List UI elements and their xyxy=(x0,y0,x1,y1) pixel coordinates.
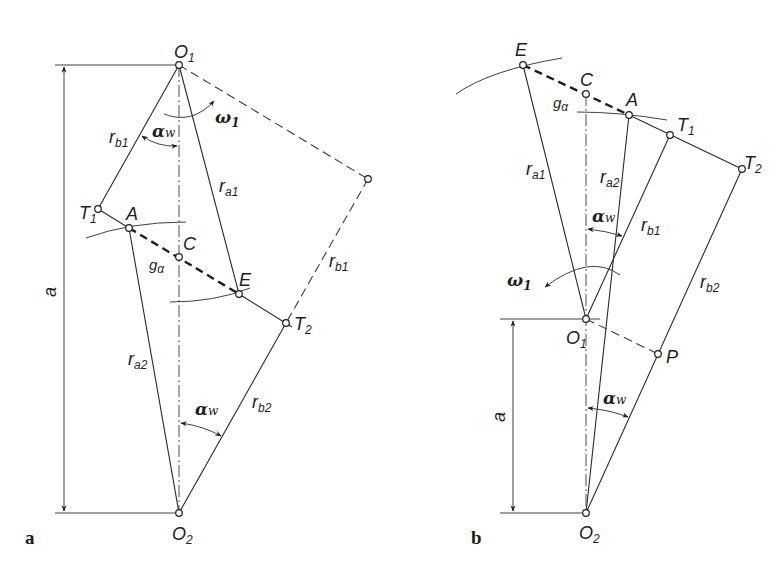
label-rb1: rb1 xyxy=(109,127,128,150)
label-o1-b: O1 xyxy=(566,328,587,351)
label-p-b: P xyxy=(666,347,678,367)
construction-line-o1 xyxy=(179,65,368,179)
panel-a: a O1 O2 T1 xyxy=(25,42,371,548)
point-o2 xyxy=(176,510,183,517)
label-e: E xyxy=(239,270,252,290)
point-t1-b xyxy=(667,132,674,139)
point-a xyxy=(126,225,133,232)
dimension-label: a xyxy=(40,287,60,297)
point-e-b xyxy=(520,62,527,69)
gear-mesh-diagram: a O1 O2 T1 xyxy=(0,0,784,573)
angle-arc-alpha-w-bottom xyxy=(181,423,221,436)
panel-b: a E C A T1 T2 xyxy=(456,40,762,548)
label-omega1-b: ω1 xyxy=(507,270,532,293)
label-o2: O2 xyxy=(172,524,193,547)
tip-circle-arc-2 xyxy=(86,222,186,238)
construction-line-rb1 xyxy=(286,179,368,323)
label-t2-b: T2 xyxy=(744,153,762,176)
label-rb2-b: rb2 xyxy=(700,272,720,295)
label-rb2: rb2 xyxy=(252,392,272,415)
point-o1 xyxy=(176,62,183,69)
label-alpha-w-top-b: αw xyxy=(592,206,616,226)
label-omega1: ω1 xyxy=(215,107,240,130)
point-c xyxy=(176,254,183,261)
panel-label-a: a xyxy=(25,527,35,548)
tip-radius-2-b xyxy=(586,115,629,513)
label-o1: O1 xyxy=(174,42,195,65)
label-alpha-w-bottom-b: αw xyxy=(603,388,627,408)
label-rb1-dashed: rb1 xyxy=(329,251,348,274)
label-g-alpha: gα xyxy=(149,256,165,276)
dimension-label-b: a xyxy=(489,412,509,422)
label-a: A xyxy=(125,204,138,224)
point-e xyxy=(236,291,243,298)
point-p-b xyxy=(655,351,662,358)
label-alpha-w-top: αw xyxy=(152,121,176,141)
tip-radius-1 xyxy=(179,65,239,294)
label-t1-b: T1 xyxy=(677,115,695,138)
angle-arc-alpha-w-bottom-b xyxy=(588,408,628,417)
label-c-b: C xyxy=(580,70,594,90)
tip-circle-arc-2-b xyxy=(577,112,667,120)
label-c: C xyxy=(183,234,197,254)
path-of-contact-b xyxy=(523,65,629,115)
point-perpendicular-foot xyxy=(365,176,372,183)
label-t2: T2 xyxy=(294,314,312,337)
label-a-b: A xyxy=(625,90,638,110)
label-g-alpha-b: gα xyxy=(553,94,569,114)
construction-line-o1-p xyxy=(586,319,658,354)
label-o2-b: O2 xyxy=(579,523,600,546)
label-t1: T1 xyxy=(79,203,97,226)
panel-label-b: b xyxy=(471,527,482,548)
label-ra1-b: ra1 xyxy=(526,159,545,182)
line-of-action-t1-a xyxy=(98,209,129,228)
tip-circle-arc-1-b xyxy=(456,58,562,94)
point-a-b xyxy=(626,112,633,119)
point-c-b xyxy=(583,91,590,98)
point-o2-b xyxy=(583,510,590,517)
point-o1-b xyxy=(583,316,590,323)
label-alpha-w-bottom: αw xyxy=(195,399,219,419)
label-ra2: ra2 xyxy=(128,349,148,372)
label-ra2-b: ra2 xyxy=(600,167,620,190)
point-t2 xyxy=(283,320,290,327)
label-e-b: E xyxy=(515,40,528,60)
label-rb1-b: rb1 xyxy=(641,215,660,238)
label-ra1: ra1 xyxy=(219,176,238,199)
